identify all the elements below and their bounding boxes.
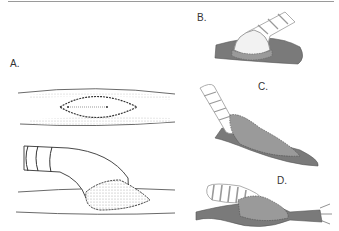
- panel-c-graft: [200, 84, 318, 166]
- panel-d-graft: [196, 184, 332, 227]
- panel-a-top-vessel: [18, 89, 175, 126]
- panel-a-bottom-graft: [16, 146, 175, 214]
- panel-b-graft: [215, 12, 303, 64]
- illustration: [0, 0, 339, 231]
